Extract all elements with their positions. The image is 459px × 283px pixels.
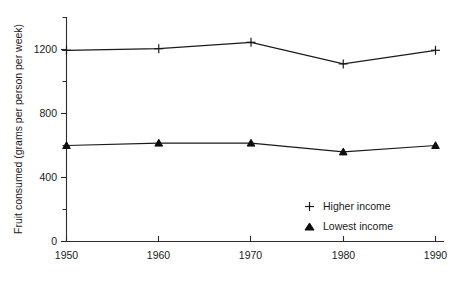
plus-marker-icon	[431, 46, 440, 55]
legend-item-lowest-income: Lowest income	[305, 220, 393, 232]
plus-marker-icon	[305, 202, 314, 211]
x-axis-ticks	[67, 236, 436, 242]
legend-item-higher-income: Higher income	[305, 200, 391, 212]
y-axis-ticks	[61, 18, 67, 242]
y-tick-label-400: 400	[39, 171, 57, 183]
series-higher-income	[62, 38, 440, 69]
legend-label-higher-income: Higher income	[323, 200, 391, 212]
series-layer	[62, 38, 440, 155]
plus-marker-icon	[62, 46, 71, 55]
series-lowest-income	[63, 139, 440, 155]
x-tick-label-1950: 1950	[55, 249, 79, 261]
y-tick-label-1200: 1200	[34, 43, 58, 55]
y-axis-title: Fruit consumed (grams per person per wee…	[12, 24, 24, 234]
legend-label-lowest-income: Lowest income	[323, 220, 393, 232]
plus-marker-icon	[154, 44, 163, 53]
line-chart: Fruit consumed (grams per person per wee…	[0, 0, 459, 283]
chart-legend: Higher income Lowest income	[305, 200, 393, 232]
x-tick-label-1980: 1980	[332, 249, 356, 261]
plus-marker-icon	[247, 38, 256, 47]
x-axis-tick-labels: 1950 1960 1970 1980 1990	[55, 249, 448, 261]
y-tick-label-0: 0	[51, 235, 57, 247]
y-axis-tick-labels: 0 400 800 1200	[34, 43, 58, 247]
y-tick-label-800: 800	[39, 107, 57, 119]
plus-marker-icon	[339, 59, 348, 68]
x-tick-label-1970: 1970	[239, 249, 263, 261]
chart-container: Fruit consumed (grams per person per wee…	[0, 0, 459, 283]
triangle-marker-icon	[305, 223, 314, 230]
x-tick-label-1960: 1960	[147, 249, 171, 261]
x-tick-label-1990: 1990	[424, 249, 448, 261]
